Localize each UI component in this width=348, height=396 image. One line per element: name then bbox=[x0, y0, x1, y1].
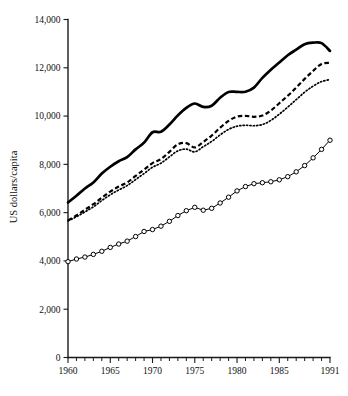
data-point-marker bbox=[269, 180, 273, 184]
chart-container: 02,0004,0006,0008,00010,00012,00014,000 … bbox=[0, 0, 348, 396]
data-point-marker bbox=[159, 224, 163, 228]
data-markers-group bbox=[66, 138, 332, 264]
data-series-group bbox=[68, 42, 330, 261]
x-tick-label: 1985 bbox=[270, 366, 289, 376]
y-axis-tick-labels: 02,0004,0006,0008,00010,00012,00014,000 bbox=[34, 15, 60, 363]
series-line-open-circle-series bbox=[68, 140, 330, 261]
y-tick-label: 8,000 bbox=[39, 160, 61, 170]
data-point-marker bbox=[218, 201, 222, 205]
series-line-dotted-series bbox=[68, 80, 330, 221]
y-tick-label: 4,000 bbox=[39, 256, 61, 266]
data-point-marker bbox=[133, 234, 137, 238]
line-chart: 02,0004,0006,0008,00010,00012,00014,000 … bbox=[0, 0, 348, 396]
data-point-marker bbox=[117, 242, 121, 246]
data-point-marker bbox=[286, 174, 290, 178]
x-axis-ticks bbox=[68, 358, 330, 364]
y-tick-label: 12,000 bbox=[34, 63, 60, 73]
data-point-marker bbox=[108, 245, 112, 249]
data-point-marker bbox=[319, 147, 323, 151]
data-point-marker bbox=[142, 229, 146, 233]
x-tick-label: 1991 bbox=[321, 366, 340, 376]
data-point-marker bbox=[176, 213, 180, 217]
data-point-marker bbox=[294, 170, 298, 174]
data-point-marker bbox=[83, 255, 87, 259]
data-point-marker bbox=[150, 227, 154, 231]
data-point-marker bbox=[311, 156, 315, 160]
data-point-marker bbox=[209, 206, 213, 210]
data-point-marker bbox=[66, 259, 70, 263]
x-tick-label: 1970 bbox=[143, 366, 162, 376]
data-point-marker bbox=[184, 209, 188, 213]
data-point-marker bbox=[125, 239, 129, 243]
data-point-marker bbox=[252, 181, 256, 185]
y-tick-label: 6,000 bbox=[39, 208, 61, 218]
x-tick-label: 1980 bbox=[228, 366, 247, 376]
data-point-marker bbox=[91, 252, 95, 256]
data-point-marker bbox=[201, 208, 205, 212]
data-point-marker bbox=[226, 195, 230, 199]
y-tick-label: 10,000 bbox=[34, 111, 60, 121]
series-line-solid-thick-series bbox=[68, 42, 330, 202]
data-point-marker bbox=[235, 189, 239, 193]
data-point-marker bbox=[302, 163, 306, 167]
data-point-marker bbox=[243, 184, 247, 188]
data-point-marker bbox=[100, 249, 104, 253]
data-point-marker bbox=[328, 138, 332, 142]
y-tick-label: 2,000 bbox=[39, 305, 61, 315]
y-axis-title: US dollars/capita bbox=[8, 150, 19, 223]
y-tick-label: 14,000 bbox=[34, 15, 60, 25]
x-tick-label: 1965 bbox=[101, 366, 120, 376]
x-tick-label: 1975 bbox=[185, 366, 204, 376]
data-point-marker bbox=[277, 178, 281, 182]
y-tick-label: 0 bbox=[56, 353, 61, 363]
axes bbox=[68, 20, 330, 358]
x-axis-tick-labels: 1960196519701975198019851991 bbox=[59, 366, 340, 376]
data-point-marker bbox=[193, 205, 197, 209]
data-point-marker bbox=[260, 181, 264, 185]
x-tick-label: 1960 bbox=[59, 366, 78, 376]
data-point-marker bbox=[167, 219, 171, 223]
data-point-marker bbox=[74, 257, 78, 261]
